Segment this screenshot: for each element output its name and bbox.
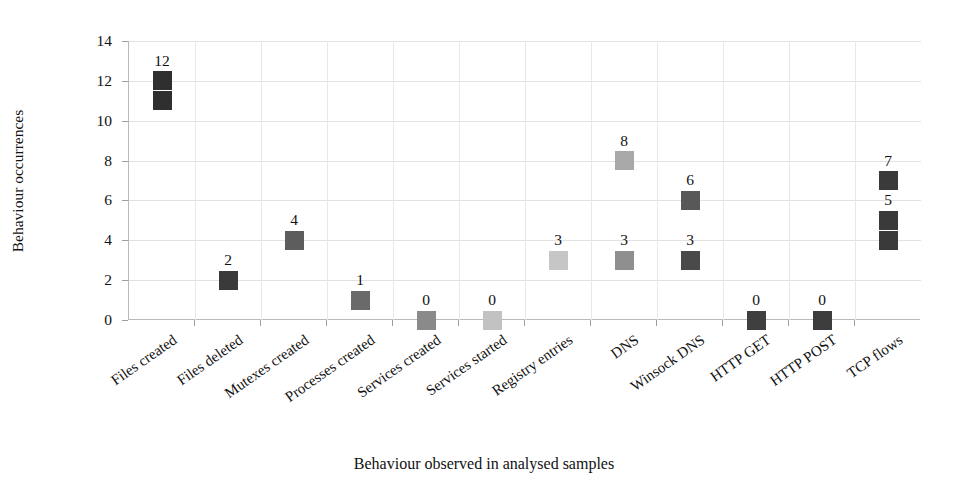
gridline-vertical [789, 41, 790, 320]
gridline-vertical [855, 41, 856, 320]
data-point-value-label: 4 [274, 212, 314, 228]
gridline-vertical [327, 41, 328, 320]
gridline-vertical [195, 41, 196, 320]
gridline-vertical [261, 41, 262, 320]
gridline-vertical [459, 41, 460, 320]
x-tick-mark [326, 320, 327, 326]
data-point-marker [549, 251, 568, 270]
y-tick-label: 14 [68, 33, 112, 49]
data-point-value-label: 6 [670, 172, 710, 188]
gridline-vertical [723, 41, 724, 320]
y-tick-label: 10 [68, 113, 112, 129]
x-tick-mark [194, 320, 195, 326]
data-point-marker [879, 231, 898, 250]
y-tick-label: 4 [68, 232, 112, 248]
y-tick-label: 2 [68, 272, 112, 288]
y-tick-label: 8 [68, 153, 112, 169]
data-point-marker [615, 151, 634, 170]
x-tick-mark [656, 320, 657, 326]
data-point-value-label: 12 [142, 53, 182, 69]
x-axis-title: Behaviour observed in analysed samples [0, 455, 968, 473]
plot-area: 1224100383630075 [128, 41, 920, 320]
data-point-value-label: 2 [208, 252, 248, 268]
data-point-value-label: 0 [802, 292, 842, 308]
x-tick-mark [722, 320, 723, 326]
gridline-vertical [591, 41, 592, 320]
data-point-value-label: 7 [868, 153, 908, 169]
data-point-marker [153, 91, 172, 110]
data-point-value-label: 3 [670, 232, 710, 248]
data-point-value-label: 3 [604, 232, 644, 248]
gridline-vertical [393, 41, 394, 320]
x-tick-mark [458, 320, 459, 326]
data-point-value-label: 1 [340, 272, 380, 288]
data-point-value-label: 0 [406, 292, 446, 308]
x-tick-mark [392, 320, 393, 326]
data-point-marker [417, 311, 436, 330]
data-point-marker [681, 191, 700, 210]
data-point-marker [351, 291, 370, 310]
data-point-value-label: 3 [538, 232, 578, 248]
data-point-marker [879, 171, 898, 190]
data-point-marker [483, 311, 502, 330]
data-point-value-label: 0 [736, 292, 776, 308]
data-point-marker [285, 231, 304, 250]
data-point-value-label: 0 [472, 292, 512, 308]
y-axis-title: Behaviour occurrences [9, 109, 27, 251]
y-tick-label: 0 [68, 312, 112, 328]
y-tick-label: 6 [68, 192, 112, 208]
y-tick-label: 12 [68, 73, 112, 89]
x-tick-mark [524, 320, 525, 326]
gridline-vertical [525, 41, 526, 320]
data-point-marker [615, 251, 634, 270]
data-point-marker [747, 311, 766, 330]
x-tick-mark [260, 320, 261, 326]
x-tick-mark [590, 320, 591, 326]
data-point-marker [681, 251, 700, 270]
data-point-marker [219, 271, 238, 290]
data-point-value-label: 5 [868, 192, 908, 208]
chart-container: Behaviour occurrences 02468101214 122410… [0, 0, 968, 498]
data-point-marker [879, 211, 898, 230]
data-point-marker [813, 311, 832, 330]
data-point-marker [153, 71, 172, 90]
x-tick-mark [788, 320, 789, 326]
x-tick-mark [854, 320, 855, 326]
data-point-value-label: 8 [604, 133, 644, 149]
y-tick-mark [122, 320, 128, 321]
gridline-vertical [657, 41, 658, 320]
